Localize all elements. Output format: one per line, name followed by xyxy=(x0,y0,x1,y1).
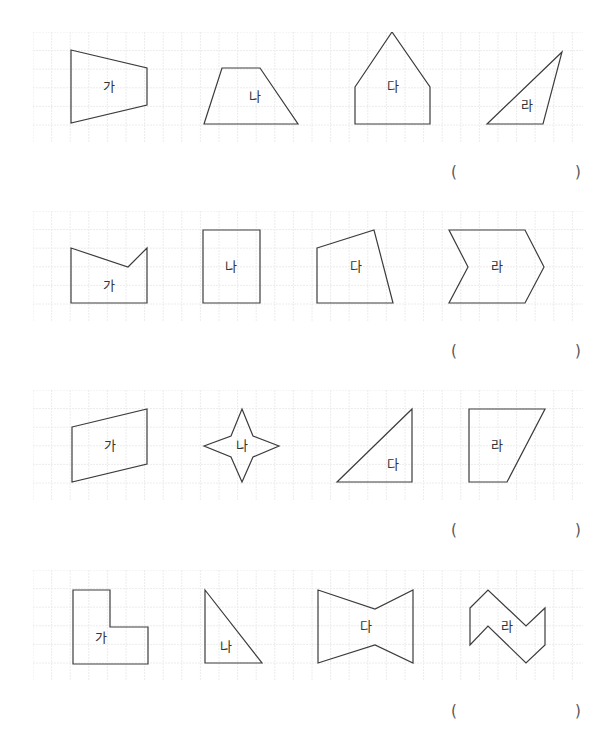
shape-가: 가 xyxy=(71,50,147,123)
grid-figure-box: 가나다라 xyxy=(33,211,583,322)
shape-label: 나 xyxy=(225,259,237,274)
shape-label: 다 xyxy=(387,79,399,94)
shape-label: 가 xyxy=(103,79,115,94)
shape-label: 라 xyxy=(491,438,503,453)
grid-paper: 가나다라 xyxy=(33,570,583,681)
shape-다: 다 xyxy=(318,590,413,663)
answer-blank[interactable] xyxy=(462,163,572,183)
grid-paper: 가나다라 xyxy=(33,390,583,501)
shape-label: 라 xyxy=(521,98,533,113)
shape-라: 라 xyxy=(470,590,545,663)
answer-blank[interactable] xyxy=(462,342,572,362)
answer-open-paren: ( xyxy=(451,163,457,181)
answer-close-paren: ) xyxy=(575,342,581,360)
shape-label: 가 xyxy=(95,630,107,645)
shape-outline xyxy=(205,590,262,663)
shape-label: 라 xyxy=(491,259,503,274)
shape-label: 나 xyxy=(249,89,261,104)
shape-label: 나 xyxy=(236,438,248,453)
answer-open-paren: ( xyxy=(451,521,457,539)
shape-label: 다 xyxy=(360,619,372,634)
shape-label: 다 xyxy=(350,259,362,274)
answer-blank[interactable] xyxy=(462,521,572,541)
grid-paper: 가나다라 xyxy=(33,211,583,322)
grid-figure-box: 가나다라 xyxy=(33,32,583,143)
shape-나: 나 xyxy=(204,68,298,124)
shape-가: 가 xyxy=(73,590,148,664)
shape-label: 가 xyxy=(104,438,116,453)
answer-open-paren: ( xyxy=(451,342,457,360)
answer-close-paren: ) xyxy=(575,521,581,539)
shape-label: 가 xyxy=(103,278,115,293)
answer-close-paren: ) xyxy=(575,163,581,181)
answer-blank[interactable] xyxy=(462,702,572,722)
answer-open-paren: ( xyxy=(451,702,457,720)
shape-outline xyxy=(71,248,147,303)
grid-lines xyxy=(33,32,583,142)
shape-label: 라 xyxy=(501,619,513,634)
grid-figure-box: 가나다라 xyxy=(33,390,583,501)
shape-나: 나 xyxy=(205,590,262,663)
shape-다: 다 xyxy=(355,32,430,124)
grid-figure-box: 가나다라 xyxy=(33,570,583,681)
answer-close-paren: ) xyxy=(575,702,581,720)
shape-outline xyxy=(73,590,148,664)
shape-label: 다 xyxy=(387,457,399,472)
shape-outline xyxy=(355,32,430,124)
shape-가: 가 xyxy=(71,248,147,303)
shape-label: 나 xyxy=(220,639,232,654)
grid-paper: 가나다라 xyxy=(33,32,583,143)
